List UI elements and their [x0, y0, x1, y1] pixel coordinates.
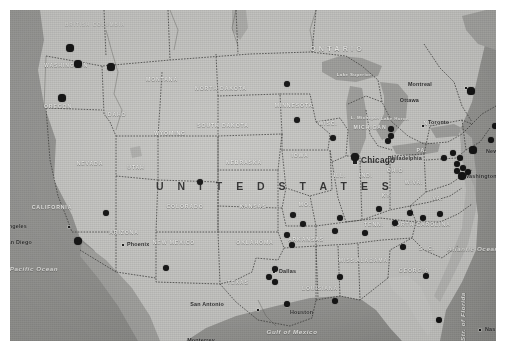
- location-marker-24[interactable]: [407, 210, 414, 217]
- location-marker-18[interactable]: [289, 242, 296, 249]
- location-marker-15[interactable]: [290, 212, 297, 219]
- location-marker-47[interactable]: [436, 317, 443, 324]
- location-marker-30[interactable]: [272, 279, 279, 286]
- us-location-map[interactable]: ONTARIOBRITISH COLUMBIAWASHINGTONOREGONI…: [10, 10, 496, 341]
- location-marker-34[interactable]: [441, 155, 448, 162]
- location-marker-27[interactable]: [400, 244, 407, 251]
- location-marker-3[interactable]: [58, 94, 65, 101]
- location-marker-10[interactable]: [351, 153, 358, 160]
- location-marker-1[interactable]: [74, 60, 81, 67]
- location-marker-14[interactable]: [163, 265, 170, 272]
- location-marker-6[interactable]: [330, 135, 337, 142]
- location-marker-42[interactable]: [469, 146, 476, 153]
- location-marker-41[interactable]: [465, 169, 472, 176]
- location-marker-16[interactable]: [300, 221, 307, 228]
- city-marker-phoenix[interactable]: [122, 244, 125, 247]
- city-marker-los-angeles[interactable]: [68, 226, 71, 229]
- city-marker-chicago[interactable]: [353, 160, 356, 163]
- location-marker-19[interactable]: [332, 228, 339, 235]
- location-marker-4[interactable]: [284, 81, 291, 88]
- location-marker-26[interactable]: [437, 211, 444, 218]
- location-marker-12[interactable]: [103, 210, 110, 217]
- location-marker-23[interactable]: [392, 220, 399, 227]
- location-marker-29[interactable]: [266, 274, 273, 281]
- city-marker-san-antonio[interactable]: [257, 309, 260, 312]
- location-marker-45[interactable]: [488, 137, 494, 143]
- location-marker-31[interactable]: [337, 274, 344, 281]
- location-marker-13[interactable]: [74, 237, 82, 245]
- location-marker-20[interactable]: [337, 215, 344, 222]
- map-screenshot: ONTARIOBRITISH COLUMBIAWASHINGTONOREGONI…: [0, 0, 511, 348]
- location-marker-17[interactable]: [284, 232, 291, 239]
- location-marker-9[interactable]: [385, 138, 391, 144]
- location-marker-43[interactable]: [467, 87, 474, 94]
- location-marker-21[interactable]: [362, 230, 369, 237]
- map-markers-layer[interactable]: [10, 10, 496, 341]
- city-marker-nassau[interactable]: [479, 329, 482, 332]
- location-marker-33[interactable]: [284, 301, 291, 308]
- location-marker-25[interactable]: [420, 215, 427, 222]
- location-marker-0[interactable]: [66, 44, 73, 51]
- city-marker-toronto[interactable]: [422, 125, 425, 128]
- location-marker-32[interactable]: [332, 298, 339, 305]
- location-marker-28[interactable]: [272, 266, 279, 273]
- location-marker-2[interactable]: [107, 63, 114, 70]
- location-marker-46[interactable]: [423, 273, 430, 280]
- location-marker-22[interactable]: [376, 206, 383, 213]
- location-marker-11[interactable]: [197, 179, 204, 186]
- location-marker-7[interactable]: [388, 126, 394, 132]
- location-marker-44[interactable]: [492, 123, 496, 129]
- location-marker-35[interactable]: [450, 150, 457, 157]
- location-marker-5[interactable]: [294, 117, 301, 124]
